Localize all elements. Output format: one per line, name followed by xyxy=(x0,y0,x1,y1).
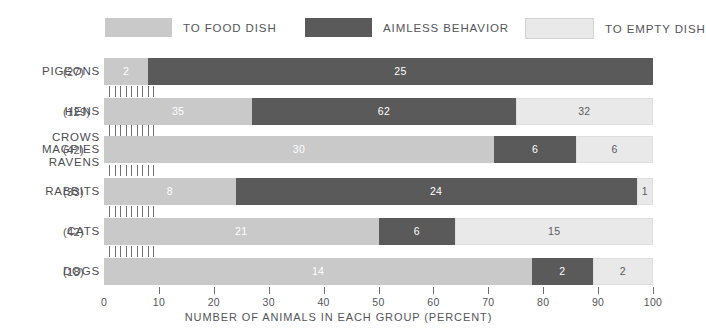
axis-tick-mark xyxy=(269,287,270,294)
gridline-tick xyxy=(137,246,138,257)
bar-segment-value: 2 xyxy=(620,266,626,277)
gridline-tick xyxy=(126,125,127,136)
gridline-tick xyxy=(126,165,127,176)
gridline-tick xyxy=(148,86,149,97)
category-group-size: (18) xyxy=(63,266,97,278)
gridline-tick xyxy=(148,165,149,176)
bar-row: 225 xyxy=(104,58,653,85)
gridline-tick xyxy=(153,165,154,176)
bar-segment-value: 21 xyxy=(235,226,247,237)
axis-tick-label: 40 xyxy=(304,296,344,308)
bar-segment-value: 6 xyxy=(414,226,420,237)
bar-segment: 32 xyxy=(516,98,653,125)
bar-segment: 6 xyxy=(379,218,456,245)
category-group-size: (27) xyxy=(63,66,97,78)
axis-tick-label: 70 xyxy=(468,296,508,308)
axis-tick-mark xyxy=(433,287,434,294)
axis-tick-label: 50 xyxy=(359,296,399,308)
bar-segment: 35 xyxy=(104,98,252,125)
bar-segment: 1 xyxy=(637,178,653,205)
gridline-tick xyxy=(142,246,143,257)
bar-segment-value: 25 xyxy=(394,66,406,77)
bar-row: 3066 xyxy=(104,136,653,163)
bar-segment: 21 xyxy=(104,218,379,245)
bar-segment-value: 24 xyxy=(430,186,442,197)
bar-segment-value: 14 xyxy=(312,266,324,277)
plot-area: 22535623230668241216151422 xyxy=(104,0,653,332)
axis-tick-label: 60 xyxy=(413,296,453,308)
gridline-tick xyxy=(148,246,149,257)
gridline-tick xyxy=(131,246,132,257)
axis-tick-mark xyxy=(543,287,544,294)
gridline-tick xyxy=(126,246,127,257)
gridline-tick xyxy=(131,165,132,176)
axis-tick-label: 100 xyxy=(633,296,673,308)
gridline-tick xyxy=(131,125,132,136)
gridline-tick xyxy=(142,125,143,136)
bar-segment: 15 xyxy=(455,218,653,245)
gridline-tick xyxy=(153,206,154,217)
axis-title: NUMBER OF ANIMALS IN EACH GROUP (PERCENT… xyxy=(0,311,677,323)
bar-segment: 2 xyxy=(593,258,653,285)
bar-segment-value: 6 xyxy=(532,144,538,155)
bar-segment: 62 xyxy=(252,98,516,125)
category-group-size: (33) xyxy=(63,186,97,198)
gridline-tick xyxy=(142,86,143,97)
category-label: CROWS xyxy=(0,132,100,144)
gridline-tick xyxy=(120,165,121,176)
bar-segment: 25 xyxy=(148,58,653,85)
gridline-tick xyxy=(153,246,154,257)
gridline-tick xyxy=(115,125,116,136)
gridline-tick xyxy=(126,86,127,97)
axis-tick-label: 90 xyxy=(578,296,618,308)
gridline-tick xyxy=(120,86,121,97)
axis-tick-mark xyxy=(653,287,654,294)
axis-tick-label: 20 xyxy=(194,296,234,308)
gridline-tick xyxy=(109,246,110,257)
gridline-tick xyxy=(142,165,143,176)
gridline-tick xyxy=(115,86,116,97)
axis-tick-label: 10 xyxy=(139,296,179,308)
gridline-tick xyxy=(148,125,149,136)
gridline-tick xyxy=(109,86,110,97)
gridline-tick xyxy=(137,206,138,217)
gridline-tick xyxy=(142,206,143,217)
axis-tick-mark xyxy=(214,287,215,294)
gridline-tick xyxy=(109,165,110,176)
bar-segment: 2 xyxy=(104,58,148,85)
gridline-tick xyxy=(126,206,127,217)
gridline-tick xyxy=(120,125,121,136)
bar-segment-value: 2 xyxy=(123,66,129,77)
gridline-tick xyxy=(109,125,110,136)
bar-row: 1422 xyxy=(104,258,653,285)
bar-segment: 14 xyxy=(104,258,532,285)
axis-tick-label: 0 xyxy=(84,296,124,308)
axis-tick-mark xyxy=(379,287,380,294)
gridline-tick xyxy=(109,206,110,217)
bar-segment-value: 32 xyxy=(578,106,590,117)
gridline-tick xyxy=(153,86,154,97)
gridline-tick xyxy=(115,206,116,217)
bar-segment-value: 6 xyxy=(611,144,617,155)
bar-segment-value: 30 xyxy=(293,144,305,155)
gridline-tick xyxy=(137,125,138,136)
bar-segment: 6 xyxy=(494,136,576,163)
gridline-tick xyxy=(115,165,116,176)
gridline-tick xyxy=(115,246,116,257)
category-label: RAVENS xyxy=(0,157,100,169)
bar-segment: 2 xyxy=(532,258,592,285)
bar-segment-value: 35 xyxy=(172,106,184,117)
gridline-tick xyxy=(148,206,149,217)
bar-segment-value: 2 xyxy=(559,266,565,277)
bar-segment: 30 xyxy=(104,136,494,163)
category-group-size: (129) xyxy=(63,106,97,118)
axis-tick-label: 30 xyxy=(249,296,289,308)
bar-row: 8241 xyxy=(104,178,653,205)
gridline-tick xyxy=(153,125,154,136)
gridline-tick xyxy=(131,86,132,97)
bar-segment: 6 xyxy=(576,136,653,163)
bar-segment: 8 xyxy=(104,178,236,205)
bar-segment-value: 1 xyxy=(642,186,648,197)
gridline-tick xyxy=(137,86,138,97)
